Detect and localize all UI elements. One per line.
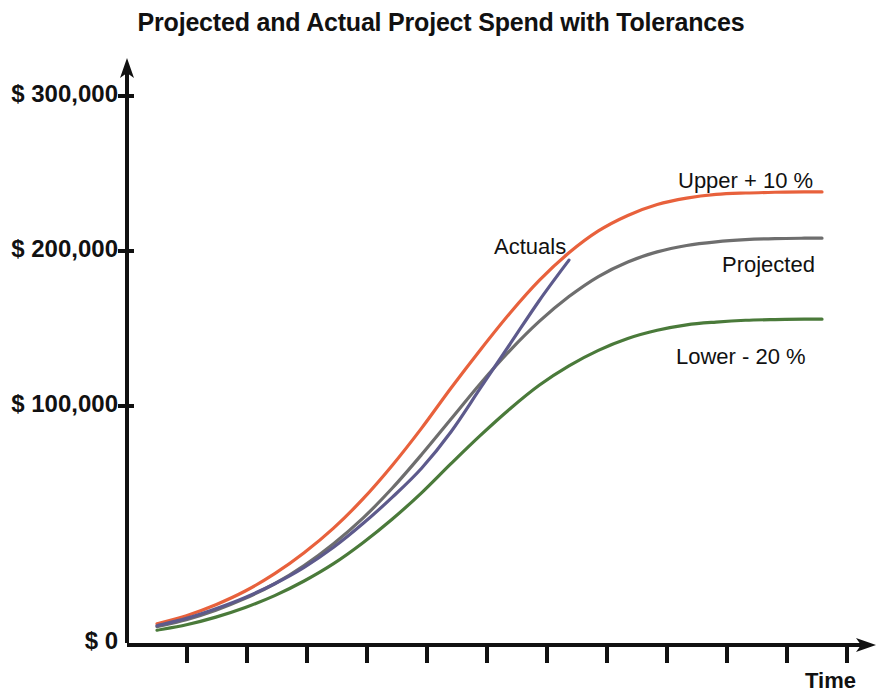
y-tick-label-0: $ 0: [0, 627, 118, 655]
x-axis-ticks: [187, 645, 847, 663]
y-tick-label-200000: $ 200,000: [0, 235, 118, 263]
series-label-lower: Lower - 20 %: [676, 344, 806, 370]
x-axis-title: Time: [805, 668, 856, 694]
series-label-projected: Projected: [722, 252, 815, 278]
chart-container: Projected and Actual Project Spend with …: [0, 0, 882, 700]
series-label-actuals: Actuals: [494, 234, 566, 260]
y-tick-label-100000: $ 100,000: [0, 390, 118, 418]
series-label-upper: Upper + 10 %: [678, 168, 813, 194]
y-tick-label-300000: $ 300,000: [0, 80, 118, 108]
series-line-projected: [157, 238, 822, 626]
